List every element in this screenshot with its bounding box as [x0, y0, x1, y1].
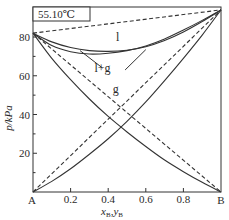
y-tick-label: 60: [19, 70, 31, 82]
y-tick-label: 20: [19, 147, 31, 159]
series-line: [33, 10, 221, 192]
tick-labels: 0.20.40.60.8AB20406080: [19, 31, 225, 206]
x-tick-label: 0.8: [177, 193, 191, 205]
phase-diagram-chart: 55.10℃ ll+gg 0.20.40.60.8AB20406080 p/kP…: [0, 0, 229, 220]
data-series: [33, 10, 221, 192]
x-end-label-b: B: [217, 194, 224, 206]
region-label: g: [113, 82, 119, 96]
y-tick-label: 40: [19, 109, 31, 121]
x-tick-label: 0.4: [101, 193, 115, 205]
region-label: l+g: [95, 61, 111, 75]
series-line: [33, 33, 221, 192]
x-axis-label: xB,yB: [100, 205, 123, 219]
x-end-label-a: A: [28, 194, 36, 206]
region-label: l: [116, 30, 120, 44]
x-tick-label: 0.6: [139, 193, 153, 205]
region-labels: ll+gg: [95, 30, 120, 96]
y-tick-label: 80: [19, 31, 31, 43]
leader-line: [125, 50, 146, 70]
x-tick-label: 0.2: [64, 193, 78, 205]
y-axis-label: p/kPa: [2, 105, 14, 132]
temperature-label: 55.10℃: [38, 8, 75, 20]
